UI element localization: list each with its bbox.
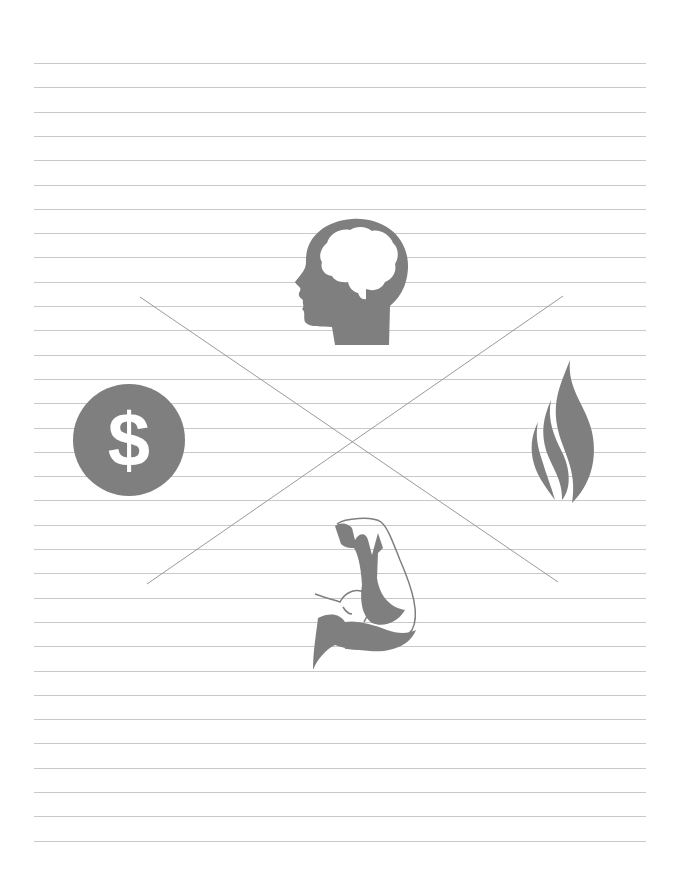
svg-text:$: $ <box>108 397 150 482</box>
flexed-arm-icon <box>313 518 416 670</box>
dollar-coin-icon: $ <box>73 384 185 496</box>
cross-diagram: $ <box>0 0 679 891</box>
head-brain-icon <box>295 219 408 345</box>
ruled-page: $ <box>0 0 679 891</box>
flame-icon <box>532 360 594 503</box>
